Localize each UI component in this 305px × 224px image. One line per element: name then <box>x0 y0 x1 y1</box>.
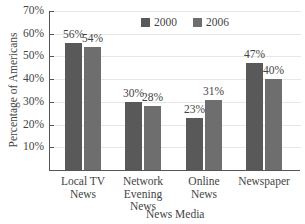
category-label: Newspaper <box>234 175 294 188</box>
bar-2006 <box>144 106 161 170</box>
y-tick-label: 60% <box>4 27 44 39</box>
legend-label-2000: 2000 <box>154 16 177 28</box>
bar-2000 <box>65 43 82 170</box>
bar-2006 <box>84 47 101 170</box>
y-axis <box>49 11 50 171</box>
x-axis <box>49 170 300 171</box>
y-tick-label: 50% <box>4 49 44 61</box>
y-tick-label: 20% <box>4 118 44 130</box>
legend-swatch-2006 <box>193 18 202 27</box>
bar-2000 <box>125 102 142 170</box>
category-label: Local TVNews <box>53 175 113 200</box>
y-axis-label: Percentage of Americans <box>7 25 19 155</box>
bar-value-label: 28% <box>138 91 168 103</box>
bar-value-label: 54% <box>78 32 108 44</box>
y-tick <box>50 125 54 126</box>
bar-2006 <box>205 100 222 170</box>
y-tick-label: 40% <box>4 72 44 84</box>
legend-swatch-2000 <box>141 18 150 27</box>
bar-value-label: 47% <box>240 48 270 60</box>
bar-2000 <box>246 63 263 170</box>
y-tick <box>50 11 54 12</box>
y-tick <box>50 56 54 57</box>
legend-item-2006: 2006 <box>193 16 229 28</box>
bar-value-label: 31% <box>199 85 229 97</box>
y-tick-label: 30% <box>4 95 44 107</box>
legend-item-2000: 2000 <box>141 16 177 28</box>
y-tick <box>50 79 54 80</box>
y-tick-label: 70% <box>4 4 44 16</box>
bar-chart: Percentage of Americans News Media 2000 … <box>0 0 305 224</box>
y-tick-label: 10% <box>4 140 44 152</box>
bar-2000 <box>186 118 203 170</box>
bar-value-label: 40% <box>259 64 289 76</box>
legend: 2000 2006 <box>141 16 245 28</box>
category-label: OnlineNews <box>174 175 234 200</box>
y-tick <box>50 147 54 148</box>
bar-2006 <box>265 79 282 170</box>
category-label: NetworkEveningNews <box>113 175 173 213</box>
y-tick <box>50 102 54 103</box>
legend-label-2006: 2006 <box>206 16 229 28</box>
y-tick <box>50 34 54 35</box>
gridline <box>50 11 301 12</box>
